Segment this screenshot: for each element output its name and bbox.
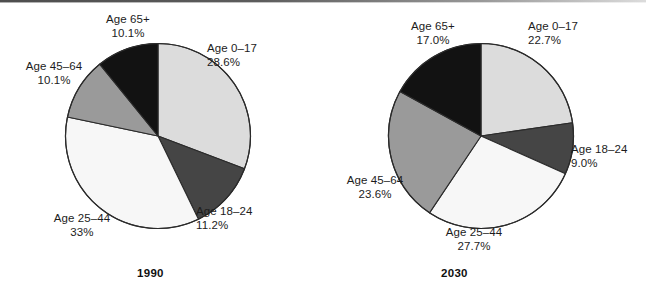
figure-canvas: Age 0–17 28.6% Age 18–24 11.2% Age 25–44… — [0, 0, 646, 296]
slice-label-1990-age-45-64: Age 45–64 10.1% — [10, 60, 98, 87]
slice-label-value: 11.2% — [196, 219, 253, 233]
slice-label-2030-age-18-24: Age 18–24 9.0% — [571, 143, 628, 170]
slice-label-name: Age 45–64 — [10, 60, 98, 74]
slice-label-value: 23.6% — [331, 188, 419, 202]
pie-panel-1990: Age 0–17 28.6% Age 18–24 11.2% Age 25–44… — [0, 0, 323, 296]
slice-label-1990-age-0-17: Age 0–17 28.6% — [207, 42, 257, 69]
slice-label-value: 22.7% — [528, 34, 578, 48]
slice-label-2030-age-65-plus: Age 65+ 17.0% — [389, 20, 477, 47]
slice-label-1990-age-18-24: Age 18–24 11.2% — [196, 205, 253, 232]
slice-label-2030-age-0-17: Age 0–17 22.7% — [528, 20, 578, 47]
slice-label-value: 27.7% — [430, 240, 518, 254]
slice-label-2030-age-45-64: Age 45–64 23.6% — [331, 174, 419, 201]
slice-label-2030-age-25-44: Age 25–44 27.7% — [430, 226, 518, 253]
slice-label-1990-age-65-plus: Age 65+ 10.1% — [84, 13, 172, 40]
slice-label-1990-age-25-44: Age 25–44 33% — [38, 212, 126, 239]
slice-label-value: 17.0% — [389, 34, 477, 48]
slice-label-value: 10.1% — [10, 74, 98, 88]
pie-chart-2030 — [387, 42, 575, 230]
slice-label-name: Age 18–24 — [571, 143, 628, 157]
panel-title-1990: 1990 — [137, 267, 164, 279]
slice-label-name: Age 25–44 — [38, 212, 126, 226]
slice-label-value: 28.6% — [207, 56, 257, 70]
slice-label-name: Age 65+ — [84, 13, 172, 27]
pie-panel-2030: Age 0–17 22.7% Age 18–24 9.0% Age 25–44 … — [323, 0, 646, 296]
panel-title-2030: 2030 — [441, 267, 468, 279]
pie-chart-2030-svg — [387, 42, 575, 230]
slice-label-value: 10.1% — [84, 27, 172, 41]
slice-label-name: Age 25–44 — [430, 226, 518, 240]
slice-label-value: 33% — [38, 226, 126, 240]
slice-label-name: Age 18–24 — [196, 205, 253, 219]
slice-label-name: Age 0–17 — [528, 20, 578, 34]
slice-label-value: 9.0% — [571, 157, 628, 171]
slice-label-name: Age 0–17 — [207, 42, 257, 56]
pie-slice — [481, 44, 573, 137]
slice-label-name: Age 65+ — [389, 20, 477, 34]
slice-label-name: Age 45–64 — [331, 174, 419, 188]
